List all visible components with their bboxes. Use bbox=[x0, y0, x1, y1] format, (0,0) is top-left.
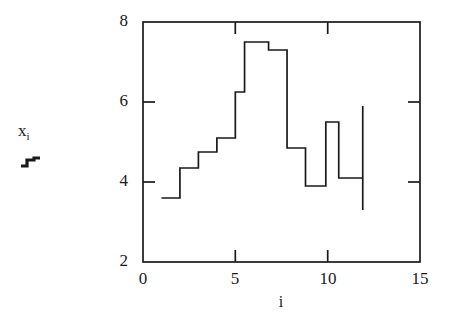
chart-figure: xi 8 6 4 2 0 5 10 15 i bbox=[0, 0, 449, 321]
axes-frame bbox=[143, 22, 420, 262]
plot-canvas bbox=[0, 0, 449, 321]
data-step-line bbox=[161, 42, 362, 210]
